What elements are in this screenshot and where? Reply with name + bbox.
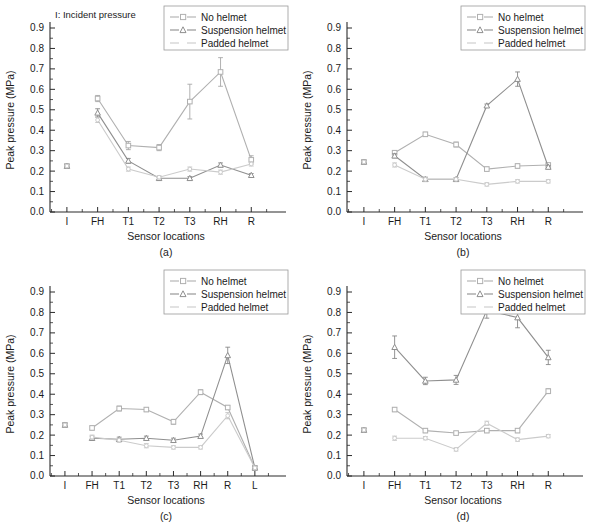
- y-tick-label: 0.9: [327, 22, 341, 33]
- y-axis-title: Peak pressure (MPa): [301, 334, 313, 433]
- data-point-square: [546, 389, 551, 394]
- data-point-square: [225, 405, 230, 410]
- data-point-marker: [219, 170, 223, 174]
- y-tick-label: 0.3: [30, 409, 44, 420]
- y-tick-label: 0.6: [30, 348, 44, 359]
- series-padded-helmet: [63, 413, 258, 470]
- x-axis-title: Sensor locations: [424, 494, 502, 506]
- x-tick-label: L: [252, 480, 258, 491]
- x-tick-label: R: [224, 480, 231, 491]
- legend-label: No helmet: [201, 276, 247, 287]
- data-point-marker: [65, 164, 69, 168]
- chart-plot-b: 0.00.10.20.30.40.50.60.70.80.9IFHT1T2T3R…: [297, 0, 593, 264]
- data-point-square: [485, 428, 490, 433]
- data-point-marker: [423, 177, 427, 181]
- y-tick-label: 0.3: [30, 145, 44, 156]
- data-point-marker: [199, 445, 203, 449]
- y-tick-label: 0.5: [327, 104, 341, 115]
- x-tick-label: I: [64, 480, 67, 491]
- legend-marker-square: [478, 14, 483, 19]
- x-tick-label: T1: [420, 480, 432, 491]
- data-point-marker: [157, 175, 161, 179]
- data-point-square: [423, 428, 428, 433]
- series-path: [98, 113, 252, 178]
- y-tick-label: 0.0: [327, 470, 341, 481]
- x-tick-label: T1: [420, 216, 432, 227]
- legend-label: No helmet: [498, 276, 544, 287]
- legend-label: Padded helmet: [498, 302, 565, 313]
- legend-label: Padded helmet: [498, 38, 565, 49]
- x-tick-label: T2: [153, 216, 165, 227]
- data-point-marker: [188, 167, 192, 171]
- data-point-marker: [546, 179, 550, 183]
- x-tick-label: T1: [123, 216, 135, 227]
- data-point-square: [117, 406, 122, 411]
- data-point-marker: [63, 423, 67, 427]
- series-no-helmet: [65, 58, 254, 169]
- x-tick-label: R: [248, 216, 255, 227]
- y-tick-label: 0.9: [30, 22, 44, 33]
- legend-label: Suspension helmet: [498, 289, 583, 300]
- data-point-square: [90, 426, 95, 431]
- y-tick-label: 0.5: [30, 368, 44, 379]
- y-tick-label: 0.3: [327, 145, 341, 156]
- series-suspension-helmet: [361, 303, 551, 433]
- x-tick-label: T3: [481, 480, 493, 491]
- y-tick-label: 0.5: [30, 104, 44, 115]
- data-point-marker: [454, 448, 458, 452]
- figure-container: 0.00.10.20.30.40.50.60.70.80.9IFHT1T2T3R…: [0, 0, 593, 528]
- data-point-marker: [362, 428, 366, 432]
- y-axis-title: Peak pressure (MPa): [4, 334, 16, 433]
- data-point-triangle: [515, 76, 521, 81]
- x-axis-title: Sensor locations: [127, 494, 205, 506]
- series-path: [98, 72, 252, 160]
- legend-marker-square: [181, 278, 186, 283]
- y-tick-label: 0.8: [30, 307, 44, 318]
- data-point-square: [188, 99, 193, 104]
- x-tick-label: T2: [140, 480, 152, 491]
- data-point-square: [95, 96, 100, 101]
- data-point-marker: [253, 466, 257, 470]
- data-point-marker: [546, 434, 550, 438]
- y-tick-label: 0.1: [327, 450, 341, 461]
- y-tick-label: 0.1: [327, 186, 341, 197]
- panel-letter: (a): [160, 246, 173, 258]
- x-tick-label: T3: [481, 216, 493, 227]
- x-tick-label: I: [363, 216, 366, 227]
- chart-plot-d: 0.00.10.20.30.40.50.60.70.80.9IFHT1T2T3R…: [297, 264, 593, 528]
- y-tick-label: 0.8: [327, 307, 341, 318]
- series-padded-helmet: [362, 421, 551, 451]
- chart-panel-c: 0.00.10.20.30.40.50.60.70.80.9IFHT1T2T3R…: [0, 264, 296, 528]
- x-tick-label: R: [545, 480, 552, 491]
- y-tick-label: 0.0: [30, 206, 44, 217]
- data-point-square: [392, 407, 397, 412]
- y-tick-label: 0.2: [327, 430, 341, 441]
- y-tick-label: 0.7: [30, 63, 44, 74]
- y-tick-label: 0.8: [30, 43, 44, 54]
- legend-marker-square: [181, 14, 186, 19]
- legend: No helmetSuspension helmetPadded helmet: [164, 270, 288, 314]
- panel-letter: (c): [160, 510, 172, 522]
- chart-panel-a: 0.00.10.20.30.40.50.60.70.80.9IFHT1T2T3R…: [0, 0, 296, 264]
- y-tick-label: 0.0: [30, 470, 44, 481]
- legend: No helmetSuspension helmetPadded helmet: [461, 270, 585, 314]
- y-tick-label: 0.0: [327, 206, 341, 217]
- incident-pressure-note: I: Incident pressure: [55, 9, 136, 20]
- data-point-square: [485, 167, 490, 172]
- series-path: [395, 134, 549, 169]
- data-point-square: [515, 164, 520, 169]
- chart-panel-d: 0.00.10.20.30.40.50.60.70.80.9IFHT1T2T3R…: [297, 264, 593, 528]
- data-point-marker: [90, 435, 94, 439]
- data-point-marker: [144, 444, 148, 448]
- data-point-triangle: [225, 352, 231, 357]
- y-tick-label: 0.4: [327, 125, 341, 136]
- chart-plot-a: 0.00.10.20.30.40.50.60.70.80.9IFHT1T2T3R…: [0, 0, 296, 264]
- data-point-marker: [126, 167, 130, 171]
- y-tick-label: 0.7: [30, 327, 44, 338]
- y-axis-title: Peak pressure (MPa): [4, 70, 16, 169]
- data-point-triangle: [248, 172, 254, 177]
- data-point-square: [198, 390, 203, 395]
- legend-label: Suspension helmet: [201, 25, 286, 36]
- y-tick-label: 0.2: [327, 166, 341, 177]
- data-point-marker: [454, 177, 458, 181]
